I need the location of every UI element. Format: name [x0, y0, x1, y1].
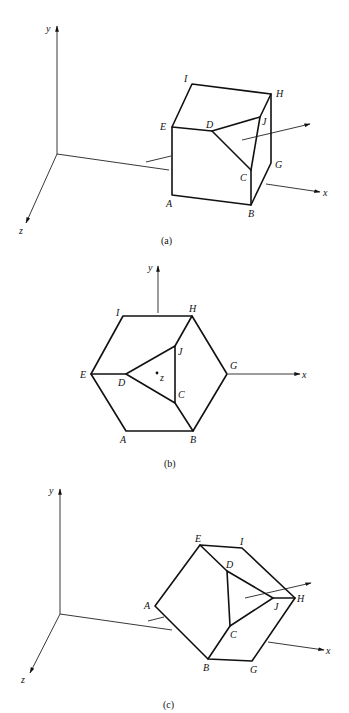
vertex-label-j: J [262, 116, 267, 127]
vertex-label-b: B [248, 208, 254, 219]
cube-rotation-diagram: y z x I H E D J G C A B (a) [0, 0, 349, 713]
vertex-label-h: H [296, 593, 305, 604]
edge-jc [251, 117, 260, 170]
z-axis-label: z [18, 225, 23, 236]
x-axis-arrow [268, 642, 324, 650]
edge-cb [208, 626, 230, 659]
vertex-label-e: E [79, 369, 86, 380]
vertex-label-c: C [230, 629, 237, 640]
cube-a [172, 84, 271, 205]
vertex-label-i: I [239, 536, 244, 547]
x-axis-label: x [325, 645, 331, 656]
vertex-label-i: I [183, 73, 188, 84]
vertex-label-a: A [143, 600, 151, 611]
view-axis-arrow [242, 124, 310, 140]
y-axis-label: y [147, 262, 153, 273]
axes-b: y x z [147, 262, 307, 383]
cube-outline [172, 84, 271, 205]
vertex-label-e: E [194, 533, 201, 544]
vertex-label-b: B [190, 434, 196, 445]
x-axis-label: x [301, 369, 307, 380]
hexagon-b [91, 316, 227, 431]
figure-c: y z x E I D H J A C B G (c) [20, 485, 331, 711]
view-axis-tail [148, 617, 164, 621]
vertex-label-j: J [178, 346, 183, 357]
figure-b: y x z I H G E D J C A B (b) [79, 262, 307, 470]
edge-cb [175, 403, 193, 431]
vertex-label-j: J [274, 601, 279, 612]
top-front-edges [172, 94, 271, 131]
caption-c: (c) [163, 699, 174, 711]
vertex-label-h: H [188, 303, 197, 314]
vertex-label-d: D [225, 559, 234, 570]
vertex-label-b: B [203, 662, 209, 673]
edge-ed [200, 545, 227, 571]
z-axis [26, 154, 57, 223]
z-axis [30, 614, 60, 673]
vertex-label-g: G [230, 360, 237, 371]
vertex-label-e: E [159, 121, 166, 132]
corner-triangle [227, 571, 273, 626]
edge-hj [175, 316, 192, 346]
vertex-labels-c: E I D H J A C B G [143, 533, 305, 675]
caption-a: (a) [161, 235, 172, 247]
vertex-label-i: I [115, 307, 120, 318]
figure-a: y z x I H E D J G C A B (a) [18, 23, 328, 247]
z-axis-label: z [20, 674, 25, 685]
caption-b: (b) [164, 458, 176, 470]
vertex-label-h: H [275, 88, 284, 99]
x-axis-segment [60, 614, 172, 630]
z-axis-point [156, 372, 159, 375]
x-axis-segment [57, 154, 169, 170]
y-axis-label: y [48, 485, 54, 496]
vertex-label-d: D [205, 119, 214, 130]
axes-a: y z x [18, 23, 328, 236]
x-axis-arrow [266, 184, 320, 192]
vertex-label-c: C [240, 172, 247, 183]
x-axis-label: x [322, 187, 328, 198]
vertex-label-a: A [165, 198, 173, 209]
axes-c: y z x [20, 485, 331, 685]
vertex-label-d: D [117, 377, 126, 388]
vertex-label-g: G [250, 664, 257, 675]
vertex-label-a: A [119, 434, 127, 445]
edge-dc [212, 131, 251, 170]
vertex-labels-a: I H E D J G C A B [159, 73, 284, 219]
view-axis-tail [146, 156, 171, 162]
z-axis-label: z [159, 372, 164, 383]
vertex-label-c: C [178, 389, 185, 400]
corner-triangle [126, 346, 175, 403]
y-axis-label: y [45, 23, 51, 34]
vertex-label-g: G [275, 159, 282, 170]
